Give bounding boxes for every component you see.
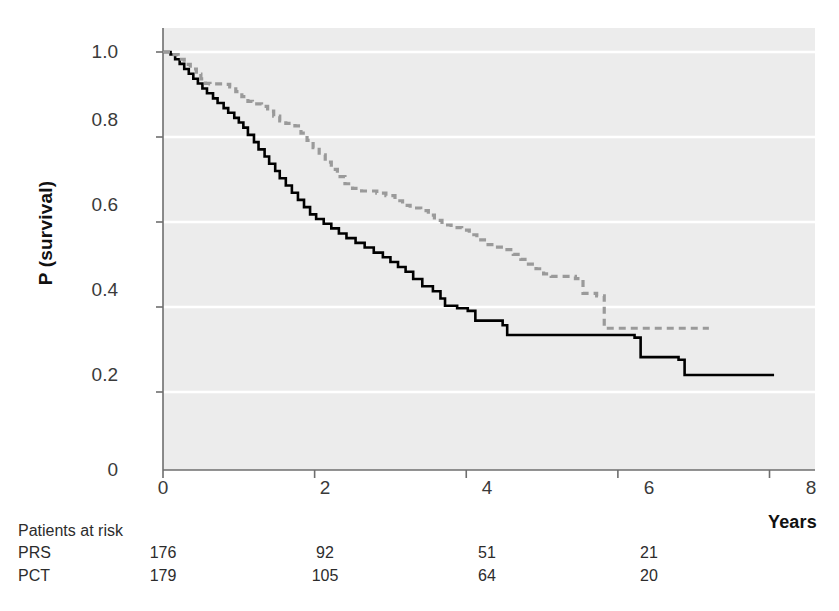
risk-cell-pct-2: 105: [299, 564, 351, 587]
risk-cell-pct-4: 64: [461, 564, 513, 587]
risk-cell-prs-0: 176: [137, 541, 189, 564]
risk-row-label-pct: PCT: [18, 564, 88, 587]
patients-at-risk-table: Patients at risk PRS 176 92 51 21 PCT 17…: [18, 520, 828, 587]
risk-row-label-prs: PRS: [18, 541, 88, 564]
risk-row-pct: PCT 179 105 64 20: [18, 564, 828, 587]
risk-cell-pct-0: 179: [137, 564, 189, 587]
risk-cell-prs-2: 92: [299, 541, 351, 564]
risk-row-prs: PRS 176 92 51 21: [18, 541, 828, 564]
risk-cell-prs-4: 51: [461, 541, 513, 564]
plot-background: [163, 28, 815, 470]
patients-at-risk-caption: Patients at risk: [18, 520, 828, 541]
risk-cell-pct-6: 20: [623, 564, 675, 587]
kaplan-meier-figure: P (survival) 1.0 0.8 0.6 0.4 0.2 0 0 2 4…: [0, 0, 839, 611]
risk-cell-prs-6: 21: [623, 541, 675, 564]
